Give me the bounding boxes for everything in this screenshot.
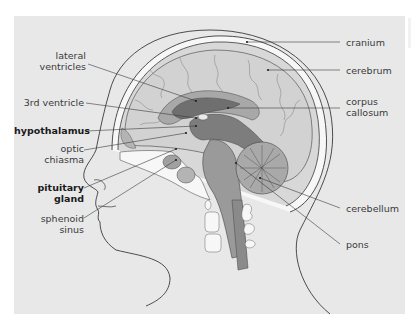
label-hypothalamus: hypothalamus (14, 125, 84, 136)
label-cerebrum: cerebrum (346, 65, 392, 76)
label-pons: pons (346, 239, 369, 250)
label-corpus-callosum: corpus callosum (346, 96, 388, 118)
label-line: chiasma (30, 154, 84, 165)
label-line: pituitary (30, 182, 84, 193)
label-line: sphenoid (30, 213, 84, 224)
label-line: 3rd ventricle (14, 97, 84, 108)
label-line: callosum (346, 107, 388, 118)
label-lateral-ventricles: lateral ventricles (32, 50, 86, 72)
label-line: pons (346, 239, 369, 250)
label-line: gland (30, 193, 84, 204)
label-line: cerebellum (346, 203, 399, 214)
label-pituitary-gland: pituitary gland (30, 182, 84, 204)
third-ventricle-opening (198, 114, 208, 120)
label-line: hypothalamus (14, 125, 84, 136)
label-3rd-ventricle: 3rd ventricle (14, 97, 84, 108)
label-cranium: cranium (346, 37, 385, 48)
label-sphenoid-sinus: sphenoid sinus (30, 213, 84, 235)
label-line: cranium (346, 37, 385, 48)
label-line: optic (30, 143, 84, 154)
pituitary-shape (163, 155, 181, 169)
label-line: cerebrum (346, 65, 392, 76)
label-optic-chiasma: optic chiasma (30, 143, 84, 165)
label-line: ventricles (32, 61, 86, 72)
label-line: lateral (32, 50, 86, 61)
label-cerebellum: cerebellum (346, 203, 399, 214)
sphenoid-sinus-shape (177, 167, 195, 183)
label-line: corpus (346, 96, 388, 107)
label-line: sinus (30, 224, 84, 235)
